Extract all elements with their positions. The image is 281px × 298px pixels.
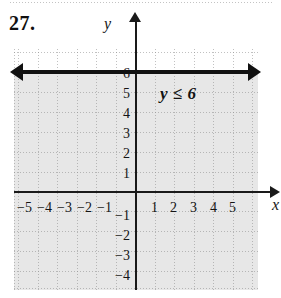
x-tick-label: −3 [57, 201, 72, 215]
gridline-vertical [96, 49, 97, 290]
y-axis-label: y [104, 15, 111, 33]
y-axis [135, 18, 137, 290]
y-tick-label: 2 [112, 147, 130, 161]
x-tick-label: −2 [77, 201, 92, 215]
boundary-arrow-left-icon [10, 63, 23, 81]
y-tick-label: 6 [112, 67, 130, 81]
x-tick-label: −1 [97, 201, 112, 215]
x-tick-label: 2 [170, 201, 177, 215]
problem-number: 27. [9, 12, 36, 35]
boundary-line-y-equals-6 [21, 70, 251, 74]
gridline-vertical [252, 49, 253, 290]
x-tick-label: −4 [37, 201, 52, 215]
page-top-rule [10, 2, 272, 3]
x-tick-label: 1 [151, 201, 158, 215]
gridline-vertical [38, 49, 39, 290]
y-tick-label: −4 [110, 269, 130, 283]
gridline-vertical [213, 49, 214, 290]
gridline-vertical [18, 49, 19, 290]
x-axis-label: x [272, 196, 279, 214]
x-tick-label: −5 [17, 201, 32, 215]
y-tick-label: 3 [112, 127, 130, 141]
inequality-annotation: y ≤ 6 [160, 84, 196, 104]
x-tick-label: 4 [210, 201, 217, 215]
x-tick-label: 5 [229, 201, 236, 215]
x-tick-label: 3 [190, 201, 197, 215]
gridline-vertical [57, 49, 58, 290]
y-tick-label: −1 [110, 209, 130, 223]
boundary-arrow-right-icon [248, 63, 261, 81]
y-tick-label: 5 [112, 87, 130, 101]
gridline-vertical [233, 49, 234, 290]
y-tick-label: −2 [110, 229, 130, 243]
y-tick-label: −3 [110, 249, 130, 263]
gridline-vertical [155, 49, 156, 290]
y-tick-label: 1 [112, 167, 130, 181]
gridline-vertical [14, 49, 15, 290]
y-axis-arrow-icon [129, 12, 141, 22]
y-tick-label: 4 [112, 107, 130, 121]
gridline-vertical [77, 49, 78, 290]
figure-container: 27. [0, 0, 281, 298]
coordinate-plane: 6 5 4 3 2 1 −1 −2 −3 −4 −5 −4 −3 −2 −1 1… [14, 49, 258, 290]
x-axis [14, 191, 272, 193]
